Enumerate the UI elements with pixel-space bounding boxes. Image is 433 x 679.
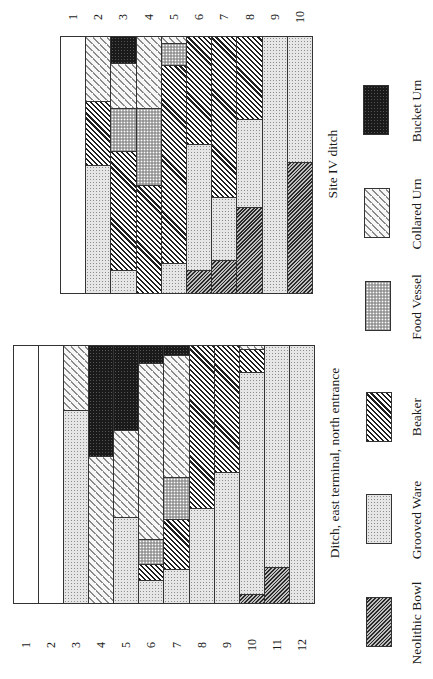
bar-segment-neolithic-bowl xyxy=(212,261,236,293)
bar-row-7 xyxy=(212,37,237,293)
bar-segment-empty xyxy=(14,346,38,603)
legend-swatch-food-vessel xyxy=(365,281,391,331)
bar-segment-grooved-ware xyxy=(111,271,135,293)
bar-segment-bucket-urn xyxy=(89,346,113,457)
bar-row-6 xyxy=(139,346,164,603)
bar-row-10 xyxy=(240,346,265,603)
bar-segment-grooved-ware xyxy=(237,120,261,207)
row-label-4: 4 xyxy=(142,7,156,27)
bar-segment-bucket-urn xyxy=(164,346,188,356)
bar-row-6 xyxy=(187,37,212,293)
bar-row-9 xyxy=(215,346,240,603)
bar-segment-neolithic-bowl xyxy=(187,271,211,293)
row-label-7: 7 xyxy=(170,635,184,655)
legend-label-grooved-ware: Grooved Ware xyxy=(408,465,426,575)
row-label-1: 1 xyxy=(19,635,33,655)
row-label-4: 4 xyxy=(94,635,108,655)
bar-row-11 xyxy=(265,346,290,603)
bar-segment-beaker xyxy=(111,152,135,271)
bar-segment-beaker xyxy=(86,102,110,167)
bar-segment-collared-urn xyxy=(111,64,135,110)
bar-segment-neolithic-bowl xyxy=(288,163,312,293)
bar-segment-food-vessel xyxy=(139,540,163,566)
bar-row-5 xyxy=(162,37,187,293)
row-label-3: 3 xyxy=(116,7,130,27)
bar-row-3 xyxy=(64,346,89,603)
row-label-6: 6 xyxy=(192,7,206,27)
row-label-2: 2 xyxy=(44,635,58,655)
row-label-5: 5 xyxy=(119,635,133,655)
bar-segment-bucket-urn xyxy=(114,346,138,431)
row-label-3: 3 xyxy=(69,635,83,655)
bar-segment-neolithic-bowl xyxy=(265,568,289,603)
legend-swatch-neolithic-bowl xyxy=(366,597,392,647)
bar-row-10 xyxy=(288,37,312,293)
bar-segment-collared-urn xyxy=(139,364,163,540)
bar-segment-food-vessel xyxy=(111,109,135,152)
row-label-2: 2 xyxy=(91,7,105,27)
bar-row-1 xyxy=(14,346,39,603)
row-label-8: 8 xyxy=(195,635,209,655)
legend-label-bucket-urn: Bucket Urn xyxy=(408,56,426,166)
bar-row-2 xyxy=(39,346,64,603)
chart-site-iv-ditch xyxy=(60,36,313,294)
bar-segment-grooved-ware xyxy=(263,37,287,293)
row-label-6: 6 xyxy=(144,635,158,655)
row-label-9: 9 xyxy=(220,635,234,655)
bar-segment-beaker xyxy=(187,37,211,145)
bar-segment-grooved-ware xyxy=(64,411,88,603)
bar-segment-bucket-urn xyxy=(139,346,163,364)
bar-segment-beaker xyxy=(215,346,239,473)
bar-segment-bucket-urn xyxy=(111,37,135,64)
bar-segment-beaker xyxy=(137,186,161,293)
legend-swatch-bucket-urn xyxy=(363,85,389,135)
bar-segment-beaker xyxy=(190,346,214,509)
legend-swatch-beaker xyxy=(366,392,392,442)
bar-segment-beaker xyxy=(237,37,261,120)
bar-row-3 xyxy=(111,37,136,293)
row-label-1: 1 xyxy=(66,7,80,27)
bar-segment-beaker xyxy=(240,350,264,373)
row-label-8: 8 xyxy=(243,7,257,27)
bar-row-4 xyxy=(89,346,114,603)
bar-segment-grooved-ware xyxy=(215,473,239,603)
bar-segment-food-vessel xyxy=(137,109,161,185)
caption-ditch-east-terminal: Ditch, east terminal, north entrance xyxy=(326,358,344,568)
bar-row-7 xyxy=(164,346,189,603)
bar-segment-collared-urn xyxy=(164,356,188,478)
bar-segment-grooved-ware xyxy=(190,509,214,603)
bar-row-8 xyxy=(237,37,262,293)
bar-segment-grooved-ware xyxy=(164,570,188,603)
row-label-11: 11 xyxy=(270,635,284,655)
bar-segment-collared-urn xyxy=(89,457,113,603)
row-label-12: 12 xyxy=(295,635,309,655)
bar-segment-neolithic-bowl xyxy=(240,595,264,603)
bar-segment-collared-urn xyxy=(114,431,138,517)
bar-segment-collared-urn xyxy=(162,37,186,44)
bar-segment-grooved-ware xyxy=(288,37,312,163)
legend-label-collared-urn: Collared Urn xyxy=(408,159,426,269)
bar-row-9 xyxy=(263,37,288,293)
bar-segment-empty xyxy=(39,346,63,603)
chart-ditch-east-terminal xyxy=(13,345,315,604)
bar-row-12 xyxy=(290,346,314,603)
bar-segment-grooved-ware xyxy=(139,581,163,603)
bar-row-2 xyxy=(86,37,111,293)
bar-row-1 xyxy=(61,37,86,293)
legend-swatch-grooved-ware xyxy=(366,494,392,544)
bar-segment-grooved-ware xyxy=(162,264,186,293)
bar-segment-collared-urn xyxy=(86,37,110,102)
row-label-7: 7 xyxy=(217,7,231,27)
bar-segment-beaker xyxy=(212,37,236,198)
bar-row-5 xyxy=(114,346,139,603)
bar-segment-grooved-ware xyxy=(212,198,236,261)
bar-segment-food-vessel xyxy=(162,44,186,66)
bar-segment-collared-urn xyxy=(137,37,161,109)
bar-segment-grooved-ware xyxy=(187,145,211,271)
bar-segment-beaker xyxy=(164,520,188,571)
caption-site-iv-ditch: Site IV ditch xyxy=(324,109,342,219)
bar-segment-beaker xyxy=(139,565,163,581)
bar-segment-collared-urn xyxy=(64,346,88,411)
bar-segment-food-vessel xyxy=(164,478,188,520)
legend-label-beaker: Beaker xyxy=(408,362,426,472)
